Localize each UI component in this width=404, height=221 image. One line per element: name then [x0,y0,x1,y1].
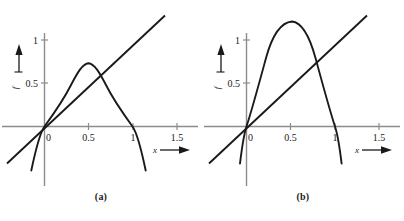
x-axis-label-b: x [354,145,359,155]
y-axis-label-b: f [212,85,222,89]
x-tick-label-0p5-a: 0.5 [82,132,95,143]
panel-caption-b: (b) [202,191,404,202]
y-tick-label-1-a: 1 [33,35,38,46]
x-axis-arrow-icon-a [160,146,190,153]
x-tick-label-1p5-a: 1.5 [171,132,184,143]
panel-caption-a: (a) [0,191,202,202]
x-axis-arrow-icon-b [362,146,392,153]
panel-a: 0 0.5 1 1.5 0.5 1 f x [0,0,202,221]
panel-b: 0 0.5 1 1.5 0.5 1 f x [202,0,404,221]
x-tick-label-1p5-b: 1.5 [373,132,386,143]
figure-two-panel-logistic-maps: 0 0.5 1 1.5 0.5 1 f x [0,0,404,221]
x-tick-label-1-a: 1 [131,132,136,143]
y-tick-label-1-b: 1 [235,35,240,46]
x-tick-label-0-b: 0 [248,132,253,143]
y-axis-label-a: f [10,85,20,89]
logistic-curve-a [31,63,145,170]
y-tick-label-0p5-a: 0.5 [26,78,39,89]
y-axis-arrow-icon-a [15,44,23,72]
x-tick-label-0p5-b: 0.5 [284,132,297,143]
x-axis-label-a: x [152,145,157,155]
y-axis-arrow-icon-b [217,44,225,72]
x-tick-label-0-a: 0 [46,132,51,143]
y-tick-label-0p5-b: 0.5 [228,78,241,89]
